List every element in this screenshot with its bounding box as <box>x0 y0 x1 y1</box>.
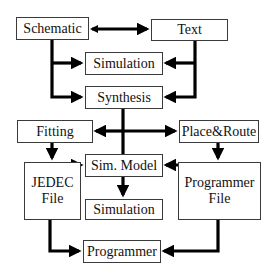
node-simulation-bottom: Simulation <box>85 199 163 220</box>
node-place-route: Place&Route <box>179 120 259 143</box>
node-sim-model: Sim. Model <box>85 154 163 177</box>
node-synthesis: Synthesis <box>85 86 163 109</box>
node-text: Text <box>151 19 228 41</box>
node-fitting: Fitting <box>17 120 93 143</box>
node-jedec-file: JEDEC File <box>24 162 81 220</box>
node-simulation-top: Simulation <box>85 52 163 75</box>
node-schematic: Schematic <box>16 17 89 40</box>
node-programmer: Programmer <box>83 240 161 263</box>
node-programmer-file: Programmer File <box>178 162 261 220</box>
flow-diagram: Schematic Text Simulation Synthesis Fitt… <box>0 0 274 276</box>
